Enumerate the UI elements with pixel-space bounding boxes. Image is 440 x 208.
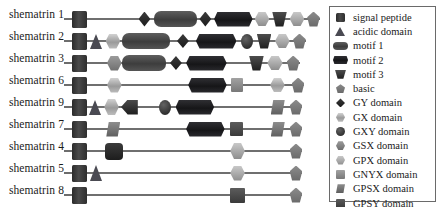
legend-item: basic bbox=[330, 81, 435, 95]
capsule-icon bbox=[334, 40, 348, 51]
domain-motif2 bbox=[196, 34, 237, 49]
legend-label: motif 2 bbox=[353, 55, 384, 66]
legend-item: GX domain bbox=[330, 110, 435, 124]
hexagon-icon bbox=[334, 155, 348, 166]
gene-track bbox=[72, 164, 302, 182]
gene-name-text: shematrin 1 bbox=[0, 8, 64, 20]
gene-row-label: shematrin 2 bbox=[0, 30, 64, 48]
legend-label: GXY domain bbox=[353, 126, 409, 137]
domain-motif3 bbox=[249, 56, 264, 71]
label-tick bbox=[64, 194, 72, 196]
domain-gy bbox=[177, 34, 189, 48]
domain-acidic bbox=[90, 165, 102, 181]
domain-basic bbox=[292, 78, 305, 93]
domain-signal bbox=[72, 77, 87, 94]
legend-item: motif 2 bbox=[330, 53, 435, 67]
legend-label: basic bbox=[353, 83, 375, 94]
domain-gpsx bbox=[106, 122, 120, 137]
domain-gxy bbox=[241, 34, 253, 49]
legend-label: signal peptide bbox=[353, 12, 412, 23]
label-tick bbox=[64, 40, 72, 42]
domain-signal bbox=[72, 121, 87, 138]
legend-item: GXY domain bbox=[330, 124, 435, 138]
gene-name-text: shematrin 8 bbox=[0, 184, 64, 196]
legend-item: GPSY domain bbox=[330, 196, 435, 207]
domain-motif2 bbox=[214, 12, 253, 27]
legend-item: GSX domain bbox=[330, 139, 435, 153]
domain-basic bbox=[290, 144, 303, 159]
gene-row-label: shematrin 9 bbox=[0, 96, 64, 114]
domain-signal bbox=[72, 99, 87, 116]
circle-icon bbox=[334, 126, 348, 137]
domain-motif3 bbox=[272, 12, 287, 27]
domain-gy bbox=[170, 56, 182, 70]
legend-item: acidic domain bbox=[330, 24, 435, 38]
gene-row-label: shematrin 1 bbox=[0, 8, 64, 26]
legend-box: signal peptideacidic domainmotif 1motif … bbox=[329, 6, 436, 202]
label-tick bbox=[64, 128, 72, 130]
gene-name-text: shematrin 9 bbox=[0, 96, 64, 108]
gene-backbone-line bbox=[72, 62, 300, 64]
triangle-icon bbox=[334, 26, 348, 37]
domain-signal bbox=[72, 165, 87, 182]
label-tick bbox=[64, 172, 72, 174]
legend-item: motif 3 bbox=[330, 67, 435, 81]
domain-gy bbox=[139, 12, 151, 27]
legend-label: GX domain bbox=[353, 112, 402, 123]
domain-gpx bbox=[230, 166, 245, 181]
legend-label: acidic domain bbox=[353, 26, 412, 37]
label-tick bbox=[64, 18, 72, 20]
legend-item: GPSX domain bbox=[330, 182, 435, 196]
domain-motif2 bbox=[176, 100, 215, 115]
domain-gx bbox=[104, 99, 119, 115]
domain-gx bbox=[107, 78, 122, 93]
gene-name-text: shematrin 2 bbox=[0, 30, 64, 42]
gene-name-text: shematrin 3 bbox=[0, 52, 64, 64]
domain-gxy bbox=[159, 100, 171, 115]
domain-motif1 bbox=[122, 33, 170, 49]
domain-motif3rev bbox=[121, 100, 138, 115]
parallelogram-icon bbox=[334, 183, 348, 194]
diamond-icon bbox=[334, 97, 348, 108]
hexagon-capsule-icon bbox=[334, 55, 348, 66]
legend-label: GPX domain bbox=[353, 155, 408, 166]
gene-backbone-line bbox=[72, 84, 304, 86]
domain-gy bbox=[199, 12, 211, 27]
legend-label: motif 1 bbox=[353, 40, 384, 51]
gene-name-text: shematrin 4 bbox=[0, 140, 64, 152]
domain-signal bbox=[72, 33, 87, 50]
domain-motif1 bbox=[122, 55, 165, 71]
domain-gpsy bbox=[230, 188, 245, 203]
square-icon bbox=[334, 169, 348, 180]
domain-basic bbox=[290, 166, 303, 181]
gene-name-text: shematrin 5 bbox=[0, 162, 64, 174]
domain-gnyx bbox=[231, 78, 243, 92]
domain-gpx bbox=[230, 143, 245, 159]
domain-basic bbox=[293, 34, 306, 49]
legend-label: GY domain bbox=[353, 97, 402, 108]
gene-backbone-line bbox=[72, 172, 302, 174]
domain-gpx bbox=[275, 34, 290, 48]
domain-gpx bbox=[255, 12, 270, 26]
domain-signal bbox=[72, 11, 87, 28]
domain-basic bbox=[290, 188, 303, 203]
gene-track bbox=[72, 142, 302, 160]
domain-gpx bbox=[267, 56, 282, 70]
domain-dark-box bbox=[105, 143, 123, 160]
domain-basic bbox=[290, 100, 303, 115]
domain-gpsy bbox=[230, 122, 243, 136]
domain-motif2 bbox=[188, 78, 227, 93]
legend-item: GNYX domain bbox=[330, 167, 435, 181]
legend-item: motif 1 bbox=[330, 39, 435, 53]
legend-label: GPSX domain bbox=[353, 183, 414, 194]
legend-label: motif 3 bbox=[353, 69, 384, 80]
legend-label: GPSY domain bbox=[353, 198, 414, 208]
gene-backbone-line bbox=[72, 194, 302, 196]
label-tick bbox=[64, 84, 72, 86]
legend-label: GSX domain bbox=[353, 140, 408, 151]
domain-basic bbox=[287, 56, 300, 71]
gene-track bbox=[72, 186, 302, 204]
legend-label: GNYX domain bbox=[353, 169, 417, 180]
domain-signal bbox=[72, 187, 87, 204]
domain-gx bbox=[106, 34, 121, 49]
